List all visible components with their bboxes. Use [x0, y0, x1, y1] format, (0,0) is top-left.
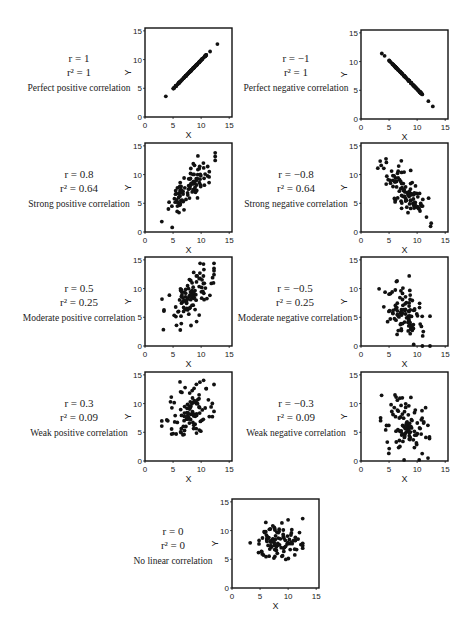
- x-tick-label: 5: [171, 121, 176, 130]
- x-tick-label: 10: [197, 121, 206, 130]
- y-tick-label: 5: [138, 428, 143, 437]
- x-tick-label: 5: [171, 236, 176, 245]
- y-tick-label: 5: [138, 84, 143, 93]
- scatter-points: [379, 393, 432, 462]
- x-tick-label: 15: [441, 236, 450, 245]
- scatter-plot-strong-negative: Y005510101515X: [336, 135, 461, 253]
- y-axis-label: Y: [339, 71, 349, 77]
- scatter-plot-perfect-negative: Y005510101515X: [336, 22, 461, 140]
- x-tick-label: 10: [413, 123, 422, 132]
- scatter-points: [164, 42, 219, 98]
- x-tick-label: 10: [413, 465, 422, 474]
- x-tick-label: 15: [225, 350, 234, 359]
- y-tick-label: 15: [133, 371, 142, 380]
- y-tick-label: 5: [354, 428, 359, 437]
- x-tick-label: 0: [143, 236, 148, 245]
- x-tick-label: 5: [387, 236, 392, 245]
- plot-frame: [361, 372, 448, 461]
- scatter-plot-moderate-positive: Y005510101515X: [120, 249, 245, 367]
- scatter-points: [248, 517, 304, 562]
- x-tick-label: 15: [312, 592, 321, 601]
- y-axis-label: Y: [210, 540, 220, 546]
- x-tick-label: 5: [171, 350, 176, 359]
- scatter-plot-strong-positive: Y005510101515X: [120, 135, 245, 253]
- y-axis-label: Y: [123, 413, 133, 419]
- scatter-points: [376, 157, 433, 228]
- x-tick-label: 0: [143, 350, 148, 359]
- y-tick-label: 15: [349, 371, 358, 380]
- x-tick-label: 0: [143, 121, 148, 130]
- y-tick-label: 10: [133, 56, 142, 65]
- y-tick-label: 10: [349, 171, 358, 180]
- x-axis-label: X: [272, 601, 278, 611]
- x-axis-label: X: [185, 474, 191, 484]
- y-tick-label: 5: [225, 555, 230, 564]
- x-tick-label: 0: [359, 350, 364, 359]
- scatter-plot-weak-positive: Y005510101515X: [120, 364, 245, 482]
- y-axis-label: Y: [339, 184, 349, 190]
- scatter-points: [160, 261, 216, 332]
- x-tick-label: 0: [143, 465, 148, 474]
- y-tick-label: 10: [349, 400, 358, 409]
- y-axis-label: Y: [339, 298, 349, 304]
- y-tick-label: 15: [220, 498, 229, 507]
- x-tick-label: 5: [387, 350, 392, 359]
- y-tick-label: 5: [354, 86, 359, 95]
- y-tick-label: 15: [349, 29, 358, 38]
- scatter-points: [380, 52, 435, 109]
- x-tick-label: 0: [359, 123, 364, 132]
- scatter-plot-weak-negative: Y005510101515X: [336, 364, 461, 482]
- y-tick-label: 10: [133, 171, 142, 180]
- x-tick-label: 5: [258, 592, 263, 601]
- x-tick-label: 15: [225, 121, 234, 130]
- x-tick-label: 5: [387, 465, 392, 474]
- y-tick-label: 5: [138, 199, 143, 208]
- y-tick-label: 15: [133, 142, 142, 151]
- x-tick-label: 10: [413, 236, 422, 245]
- plot-frame: [145, 257, 232, 346]
- y-axis-label: Y: [123, 298, 133, 304]
- x-tick-label: 10: [197, 350, 206, 359]
- x-axis-label: X: [401, 474, 407, 484]
- scatter-points: [160, 151, 217, 229]
- y-tick-label: 10: [349, 58, 358, 67]
- x-tick-label: 15: [441, 465, 450, 474]
- x-tick-label: 5: [171, 465, 176, 474]
- x-tick-label: 10: [197, 465, 206, 474]
- x-tick-label: 0: [230, 592, 235, 601]
- scatter-plot-no-correlation: Y005510101515X: [207, 491, 332, 609]
- y-tick-label: 10: [133, 285, 142, 294]
- x-tick-label: 15: [441, 350, 450, 359]
- y-tick-label: 15: [133, 27, 142, 36]
- x-tick-label: 15: [225, 465, 234, 474]
- y-axis-label: Y: [339, 413, 349, 419]
- x-tick-label: 10: [197, 236, 206, 245]
- y-tick-label: 15: [349, 256, 358, 265]
- x-tick-label: 15: [225, 236, 234, 245]
- y-axis-label: Y: [123, 69, 133, 75]
- y-tick-label: 10: [133, 400, 142, 409]
- y-tick-label: 5: [354, 313, 359, 322]
- x-tick-label: 0: [359, 465, 364, 474]
- x-tick-label: 5: [387, 123, 392, 132]
- scatter-plot-perfect-positive: Y005510101515X: [120, 20, 245, 138]
- y-tick-label: 15: [349, 142, 358, 151]
- y-tick-label: 5: [354, 199, 359, 208]
- y-tick-label: 15: [133, 256, 142, 265]
- x-tick-label: 15: [441, 123, 450, 132]
- x-tick-label: 10: [413, 350, 422, 359]
- scatter-points: [160, 378, 216, 436]
- x-tick-label: 10: [284, 592, 293, 601]
- y-tick-label: 10: [220, 527, 229, 536]
- scatter-points: [377, 274, 432, 348]
- y-tick-label: 5: [138, 313, 143, 322]
- scatter-plot-moderate-negative: Y005510101515X: [336, 249, 461, 367]
- plot-frame: [361, 257, 448, 346]
- x-tick-label: 0: [359, 236, 364, 245]
- y-axis-label: Y: [123, 184, 133, 190]
- y-tick-label: 10: [349, 285, 358, 294]
